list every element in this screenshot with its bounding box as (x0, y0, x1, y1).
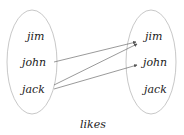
arrow-jack-to-john (54, 65, 137, 89)
left-item-jim: jim (24, 30, 44, 43)
caption: likes (80, 118, 106, 131)
right-item-john: john (140, 56, 167, 69)
right-item-jack: jack (141, 83, 167, 96)
arrow-john-to-jim (54, 42, 136, 62)
left-item-john: john (19, 56, 46, 69)
relation-diagram: jim john jack jim john jack likes (0, 0, 184, 135)
left-item-jack: jack (19, 83, 45, 96)
right-item-jim: jim (142, 30, 162, 43)
arrow-jack-to-jim (54, 44, 137, 85)
